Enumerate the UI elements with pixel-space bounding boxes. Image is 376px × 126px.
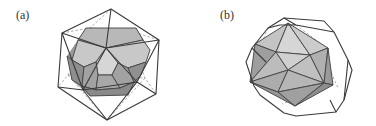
panel-b: (b) — [188, 0, 376, 126]
dodecahedron-in-icosahedron-figure — [0, 0, 188, 126]
icosahedron-in-dodecahedron-figure — [188, 0, 376, 126]
panel-a: (a) — [0, 0, 188, 126]
